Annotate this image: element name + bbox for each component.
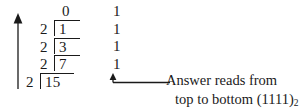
division-bracket: 1 — [54, 20, 80, 36]
base-subscript: 2 — [294, 98, 299, 108]
divisor: 2 — [40, 22, 48, 37]
remainder-digit: 1 — [113, 4, 121, 19]
division-bracket: 3 — [54, 38, 80, 54]
dividend: 7 — [59, 57, 67, 72]
divisor: 2 — [40, 40, 48, 55]
division-bracket: 15 — [40, 73, 74, 89]
up-arrow-icon — [11, 13, 25, 89]
callout-arrow-icon — [108, 73, 170, 89]
divisor: 2 — [40, 57, 48, 72]
dividend: 15 — [45, 75, 61, 90]
remainder-digit: 1 — [113, 22, 121, 37]
figure-canvas: 0 2 1 2 3 2 7 2 15 1 1 — [0, 0, 299, 111]
remainder-digit: 1 — [113, 39, 121, 54]
quotient-zero: 0 — [62, 4, 70, 19]
dividend: 3 — [59, 40, 67, 55]
division-bracket: 7 — [54, 55, 80, 71]
caption: Answer reads from top to bottom (1111)2 — [166, 71, 299, 111]
caption-line-2-text: top to bottom (1111) — [175, 91, 294, 107]
caption-line-2: top to bottom (1111)2 — [166, 90, 299, 111]
divisor: 2 — [26, 75, 34, 90]
dividend: 1 — [59, 22, 67, 37]
remainder-digit: 1 — [113, 57, 121, 72]
caption-line-1: Answer reads from — [166, 72, 277, 88]
